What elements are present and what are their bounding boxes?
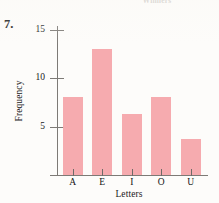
y-tick-mark [50, 78, 64, 79]
bar-chart: 51015 Frequency AEIOU Letters [0, 0, 219, 203]
y-tick-label: 15 [17, 24, 45, 34]
x-tick-label: O [149, 177, 173, 187]
bar [63, 97, 83, 175]
x-tick-mark [191, 169, 192, 176]
bar [151, 97, 171, 175]
x-tick-mark [132, 169, 133, 176]
x-tick-label: U [179, 177, 203, 187]
y-axis-line [57, 26, 58, 176]
x-tick-label: A [61, 177, 85, 187]
x-axis-title: Letters [50, 189, 208, 199]
bar [122, 114, 142, 175]
y-axis-title: Frequency [14, 62, 24, 140]
x-tick-mark [73, 169, 74, 176]
bar [92, 49, 112, 175]
x-tick-label: E [90, 177, 114, 187]
x-tick-mark [161, 169, 162, 176]
x-tick-mark [102, 169, 103, 176]
x-tick-label: I [120, 177, 144, 187]
y-tick-mark [50, 30, 64, 31]
exercise-figure: Winners 7. 51015 Frequency AEIOU Letters [0, 0, 219, 203]
